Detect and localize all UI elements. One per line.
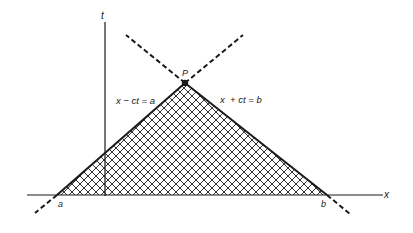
x-axis-label: x [383,189,390,200]
t-axis-label: t [101,10,105,21]
domain-of-dependence-diagram: t x P a b x − ct = a x + ct = b [0,0,413,233]
hatched-region [50,80,335,198]
point-p-label: P [182,68,188,78]
left-line-equation: x − ct = a [115,95,155,106]
right-characteristic-extension-upper [185,35,243,83]
left-characteristic-extension-lower [35,195,57,213]
point-p-marker [182,80,188,86]
point-a-label: a [58,199,63,209]
right-line-equation: x + ct = b [219,94,262,105]
point-b-label: b [321,199,326,209]
left-characteristic-extension-upper [126,35,185,83]
right-characteristic-extension-lower [327,195,350,214]
